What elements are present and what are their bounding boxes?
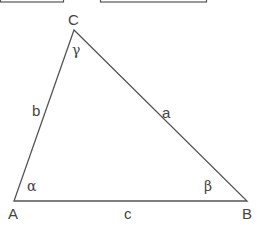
triangle-abc: [14, 30, 247, 201]
angle-label-alpha: α: [27, 178, 37, 194]
angle-label-beta: β: [204, 178, 212, 194]
angle-label-gamma: γ: [72, 42, 80, 58]
top-right-box: [101, 0, 207, 2]
side-label-c: c: [124, 205, 132, 222]
triangle-diagram: A B C a b c α β γ: [0, 0, 259, 230]
vertex-label-a: A: [8, 205, 18, 222]
side-label-b: b: [32, 102, 40, 119]
top-left-box: [1, 0, 64, 2]
vertex-label-b: B: [242, 205, 252, 222]
side-label-a: a: [162, 104, 171, 121]
vertex-label-c: C: [68, 11, 79, 28]
